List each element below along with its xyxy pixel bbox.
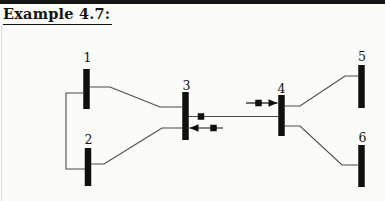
bus-4-bar: [278, 95, 285, 136]
bus-3-label: 3: [183, 78, 191, 93]
diagram-svg: 123456: [0, 0, 385, 201]
bus-1-bar: [83, 69, 90, 109]
measurement-square-line-3-4: [198, 113, 205, 120]
flow-arrow-into-bus-4-square: [255, 100, 262, 107]
bus-6-bar: [358, 145, 365, 187]
bus-2-label: 2: [85, 132, 93, 147]
bus-3-bar: [182, 92, 189, 140]
bus-5-label: 5: [358, 49, 366, 64]
bus-6-label: 6: [359, 130, 367, 145]
bus-2-bar: [85, 148, 92, 186]
line-1-3: [90, 87, 182, 107]
flow-arrow-into-bus-3-head: [190, 124, 199, 132]
line-4-6: [285, 126, 358, 165]
flow-arrow-into-bus-3-square: [210, 125, 217, 132]
line-1-2: [66, 93, 85, 169]
flow-arrow-into-bus-4-head: [269, 99, 278, 107]
line-4-5: [285, 76, 358, 106]
bus-1-label: 1: [84, 50, 92, 65]
line-2-3: [91, 128, 182, 164]
bus-4-label: 4: [278, 81, 286, 96]
bus-5-bar: [358, 65, 365, 108]
